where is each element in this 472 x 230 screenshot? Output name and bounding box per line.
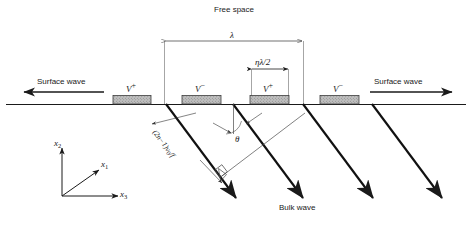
electrode-4	[320, 96, 359, 105]
coordinate-axes	[62, 148, 118, 196]
bulk-ray-2	[233, 104, 303, 198]
axis-x1	[62, 170, 99, 196]
electrode-3	[250, 96, 289, 105]
figure-saw-transducer: Free space Surface wave Surface wave Bul…	[0, 0, 472, 230]
electrode-label-4: V−	[333, 82, 343, 94]
lambda-dimension	[165, 41, 304, 104]
eta-lambda-label: ηλ/2	[255, 58, 270, 67]
surface-wave-label-right: Surface wave	[374, 78, 422, 86]
electrode-label-3: V+	[263, 82, 273, 94]
electrode-1	[113, 96, 151, 105]
electrode-label-2: V−	[195, 82, 205, 94]
electrode-label-1: V+	[126, 82, 136, 94]
electrode-2	[182, 96, 221, 105]
bulk-ray-3	[303, 104, 373, 198]
electrode-group	[113, 96, 359, 105]
surface-wave-label-left: Surface wave	[37, 78, 85, 86]
axis-label-x2: x2	[54, 139, 61, 149]
figure-vector-canvas	[0, 0, 472, 230]
lambda-label: λ	[230, 31, 234, 40]
bulk-ray-4	[372, 104, 442, 198]
theta-label: θ	[235, 135, 239, 144]
wavefront-line	[215, 113, 305, 181]
axis-label-x1: x1	[101, 160, 108, 170]
bulk-wave-label: Bulk wave	[279, 204, 315, 212]
bulk-wave-rays	[166, 104, 442, 198]
axis-label-x3: x3	[120, 190, 127, 200]
free-space-label: Free space	[214, 6, 254, 14]
